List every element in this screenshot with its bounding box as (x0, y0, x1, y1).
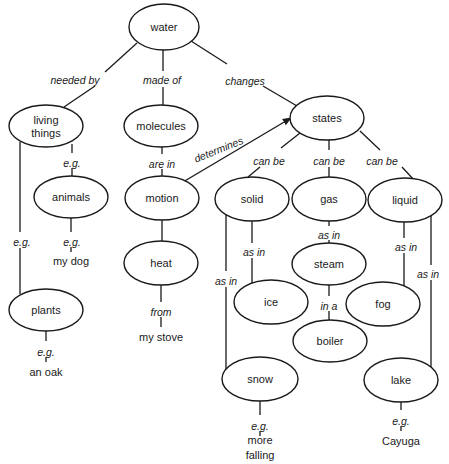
node-label: things (31, 127, 61, 139)
node-label: animals (52, 191, 90, 203)
edge-water-to-living (105, 43, 137, 72)
link-label-are-in: are in (149, 158, 175, 170)
link-label-e-g: e.g. (13, 236, 31, 248)
concept-node-heat[interactable]: heat (124, 241, 198, 285)
link-label-as-in: as in (417, 268, 439, 280)
concept-node-fog[interactable]: fog (346, 282, 420, 326)
concept-node-living[interactable]: livingthings (9, 105, 83, 147)
concept-node-plants[interactable]: plants (9, 289, 83, 331)
edge-states-to-solid (248, 167, 260, 177)
link-label-made-of: made of (143, 74, 182, 86)
link-label-e-g: e.g. (37, 346, 55, 358)
link-label-needed-by: needed by (50, 74, 100, 86)
example-label: more (247, 434, 272, 446)
link-label-as-in: as in (215, 275, 237, 287)
edge-states-to-liquid (360, 131, 380, 150)
concept-node-snow[interactable]: snow (222, 357, 298, 401)
concept-map-svg: waterlivingthingsmoleculesstatesanimalsm… (0, 0, 449, 464)
node-label: ice (264, 296, 278, 308)
concept-map: waterlivingthingsmoleculesstatesanimalsm… (0, 0, 449, 464)
node-label: liquid (392, 194, 418, 206)
node-label: living (33, 114, 58, 126)
link-label-e-g: e.g. (392, 415, 410, 427)
concept-node-states[interactable]: states (290, 96, 364, 140)
concept-node-liquid[interactable]: liquid (368, 178, 442, 222)
node-label: solid (241, 193, 264, 205)
concept-node-gas[interactable]: gas (292, 177, 366, 221)
concept-node-steam[interactable]: steam (292, 243, 366, 285)
link-label-as-in: as in (395, 241, 417, 253)
link-label-changes: changes (225, 75, 265, 87)
edge-water-to-states (191, 41, 227, 64)
concept-node-animals[interactable]: animals (34, 176, 108, 218)
link-label-can-be: can be (253, 155, 285, 167)
node-label: plants (31, 304, 61, 316)
node-label: snow (247, 373, 273, 385)
example-term-my-dog: my dog (53, 255, 89, 267)
example-term-an-oak: an oak (29, 366, 63, 378)
node-label: fog (375, 298, 390, 310)
concept-node-molecules[interactable]: molecules (124, 105, 198, 147)
node-label: molecules (136, 120, 186, 132)
link-label-e-g: e.g. (63, 236, 81, 248)
concept-node-boiler[interactable]: boiler (293, 320, 367, 362)
example-term-my-stove: my stove (139, 331, 183, 343)
concept-node-ice[interactable]: ice (234, 280, 308, 324)
link-label-can-be: can be (313, 155, 345, 167)
example-term-more-falling: morefalling (246, 434, 275, 461)
link-label-can-be: can be (366, 155, 398, 167)
node-label: motion (145, 192, 178, 204)
node-label: boiler (317, 335, 344, 347)
edge-water-to-living (64, 86, 95, 107)
node-label: states (312, 112, 342, 124)
concept-node-motion[interactable]: motion (125, 176, 199, 220)
concept-node-water[interactable]: water (129, 4, 199, 50)
node-label: lake (391, 374, 411, 386)
node-label: water (150, 21, 178, 33)
example-label: my stove (139, 331, 183, 343)
example-label: Cayuga (382, 435, 421, 447)
example-label: my dog (53, 255, 89, 267)
link-label-as-in: as in (318, 229, 340, 241)
link-label-as-in: as in (243, 246, 265, 258)
node-label: steam (314, 258, 344, 270)
link-label-e-g: e.g. (63, 157, 81, 169)
example-label: an oak (29, 366, 63, 378)
node-label: heat (150, 257, 171, 269)
link-label-e-g: e.g. (251, 420, 269, 432)
concept-node-solid[interactable]: solid (215, 177, 289, 221)
example-term-cayuga: Cayuga (382, 435, 421, 447)
link-label-from: from (151, 306, 172, 318)
link-label-in-a: in a (321, 300, 338, 312)
edge-water-to-states (263, 86, 297, 106)
node-label: gas (320, 193, 338, 205)
example-label: falling (246, 449, 275, 461)
edge-states-to-solid (281, 133, 300, 148)
concept-node-lake[interactable]: lake (364, 358, 438, 402)
